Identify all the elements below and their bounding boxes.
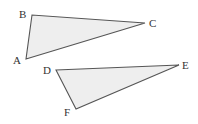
- geometry-diagram: A B C D E F: [0, 0, 198, 124]
- vertex-label-f: F: [64, 106, 70, 118]
- vertex-label-d: D: [43, 64, 51, 76]
- triangle-def: [56, 65, 179, 109]
- vertex-label-b: B: [19, 8, 26, 20]
- triangle-abc: [26, 15, 145, 59]
- vertex-label-e: E: [182, 59, 189, 71]
- vertex-label-c: C: [149, 17, 156, 29]
- vertex-label-a: A: [13, 54, 21, 66]
